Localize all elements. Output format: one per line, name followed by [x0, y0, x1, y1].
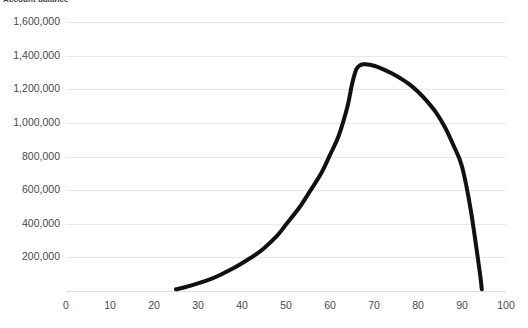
series-line-chart [0, 0, 528, 328]
series-line-account-balance [176, 64, 482, 289]
chart-container: Account balance 200,000400,000600,000800… [0, 0, 528, 328]
